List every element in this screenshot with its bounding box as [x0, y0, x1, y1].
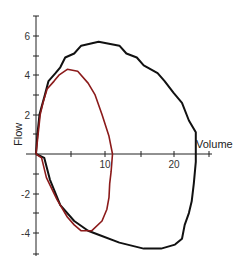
y-tick-neg2: -2	[21, 189, 30, 200]
small-loop-curve	[36, 69, 113, 231]
y-tick-4: 4	[24, 70, 30, 81]
y-tick-2: 2	[24, 110, 30, 121]
x-axis	[26, 151, 212, 157]
flow-volume-chart: 6 4 2 -2 -4 10 20 Volume Flow	[0, 0, 244, 274]
x-tick-20: 20	[168, 159, 180, 170]
x-axis-title: Volume	[196, 138, 233, 150]
large-loop-curve	[36, 42, 196, 249]
y-tick-neg4: -4	[21, 228, 30, 239]
y-tick-6: 6	[24, 31, 30, 42]
x-tick-10: 10	[99, 159, 111, 170]
y-axis-title: Flow	[12, 123, 24, 146]
